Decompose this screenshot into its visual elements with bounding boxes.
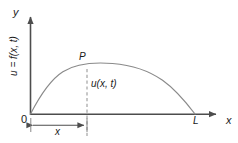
wave-displacement-figure: y x 0 u = f(x, t) P u(x, t) L x	[0, 0, 238, 143]
point-p-label: P	[79, 52, 86, 62]
origin-label: 0	[21, 114, 27, 125]
displacement-label: u(x, t)	[91, 79, 117, 89]
string-length-label: L	[193, 116, 199, 126]
x-axis-label: x	[226, 115, 232, 126]
figure-canvas	[0, 0, 238, 143]
y-axis-label: y	[13, 7, 19, 18]
distance-label: x	[55, 127, 60, 137]
vertical-axis-function-label: u = f(x, t)	[9, 21, 19, 91]
